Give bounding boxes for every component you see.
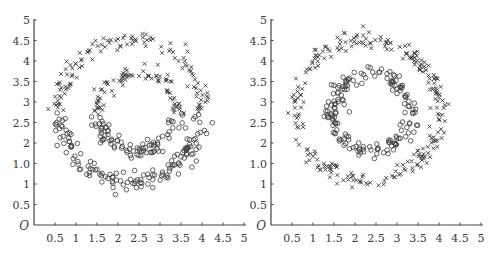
circle-marker	[158, 178, 163, 183]
circle-marker	[372, 156, 377, 161]
cross-marker	[344, 49, 348, 53]
y-tick-label: 3	[23, 96, 30, 109]
cross-marker	[350, 185, 354, 189]
circle-marker	[125, 180, 130, 185]
cross-marker	[369, 46, 373, 50]
cross-marker	[367, 30, 371, 34]
cross-marker	[428, 125, 432, 129]
cross-marker	[403, 44, 407, 48]
y-tick-label: 1	[260, 178, 267, 191]
y-tick-label: 4	[260, 55, 267, 68]
y-tick-label: 3.5	[13, 76, 31, 89]
cross-marker	[407, 43, 411, 47]
cross-marker	[125, 42, 129, 46]
cross-marker	[402, 167, 406, 171]
cross-marker	[398, 45, 402, 49]
cross-marker	[315, 158, 319, 162]
cross-marker	[435, 145, 439, 149]
cross-marker	[304, 71, 308, 75]
circle-marker	[114, 178, 119, 183]
left-scatter-panel: 0.511.522.533.544.550.511.022.533.544.55…	[0, 0, 250, 255]
cross-marker	[158, 74, 162, 78]
circle-marker	[62, 141, 67, 146]
circle-marker	[121, 170, 126, 175]
x-tick-label: 2	[352, 232, 359, 245]
cross-marker	[116, 48, 120, 52]
circle-marker	[351, 78, 356, 83]
axes: 0.511.522.533.544.550.511.022.533.544.55…	[250, 14, 485, 245]
cross-marker	[199, 89, 203, 93]
cross-marker	[206, 96, 210, 100]
cross-marker	[411, 169, 415, 173]
cross-marker	[144, 33, 148, 37]
circle-marker	[120, 144, 125, 149]
circle-marker	[61, 134, 66, 139]
cross-marker	[295, 116, 299, 120]
cross-marker	[53, 95, 57, 99]
circle-marker	[385, 76, 390, 81]
circle-marker	[352, 70, 357, 75]
cross-marker	[352, 178, 356, 182]
cross-marker	[429, 106, 433, 110]
circle-marker	[370, 70, 375, 75]
cross-marker	[420, 58, 424, 62]
cross-marker	[137, 74, 141, 78]
y-tick-label: 2	[260, 137, 267, 150]
axes: 0.511.522.533.544.550.511.022.533.544.55…	[13, 14, 248, 245]
circle-marker	[71, 162, 76, 167]
cross-marker	[144, 44, 148, 48]
cross-marker	[410, 159, 414, 163]
cross-marker	[419, 165, 423, 169]
y-tick-label: 4	[23, 55, 30, 68]
cross-marker	[186, 85, 190, 89]
x-tick-label: 4.5	[214, 232, 232, 245]
cross-marker	[329, 55, 333, 59]
cross-marker	[397, 173, 401, 177]
right-scatter-panel: 0.511.522.533.544.550.511.022.533.544.55…	[237, 0, 487, 255]
x-tick-label: 3.5	[172, 232, 190, 245]
cross-marker	[112, 94, 116, 98]
origin-label: O	[19, 219, 29, 233]
cross-marker	[344, 40, 348, 44]
circle-marker	[197, 120, 202, 125]
cross-marker	[94, 39, 98, 43]
x-tick-label: 3	[157, 232, 164, 245]
circle-marker	[55, 143, 60, 148]
cross-marker	[335, 173, 339, 177]
circle-marker	[167, 169, 172, 174]
cross-marker	[443, 119, 447, 123]
cross-marker	[373, 38, 377, 42]
circle-marker	[89, 114, 94, 119]
x-tick-label: 4	[436, 232, 443, 245]
cross-marker	[427, 81, 431, 85]
circle-marker	[100, 180, 105, 185]
cross-marker	[160, 51, 164, 55]
cross-marker	[389, 41, 393, 45]
cross-marker	[296, 126, 300, 130]
cross-marker	[299, 93, 303, 97]
circle-marker	[171, 126, 176, 131]
x-tick-label: 3	[394, 232, 401, 245]
circle-marker	[347, 110, 352, 115]
cross-marker	[361, 42, 365, 46]
cross-marker	[195, 95, 199, 99]
x-tick-label: 2.5	[130, 232, 148, 245]
circle-marker	[412, 101, 417, 106]
x-tick-label: 2	[115, 232, 122, 245]
cross-marker	[447, 102, 451, 106]
circle-marker	[397, 74, 402, 79]
cross-marker	[324, 168, 328, 172]
circle-marker	[75, 141, 80, 146]
cross-marker	[341, 178, 345, 182]
cross-marker	[322, 162, 326, 166]
cross-marker	[329, 171, 333, 175]
cross-marker	[436, 99, 440, 103]
circle-marker	[151, 185, 156, 190]
circle-marker	[402, 101, 407, 106]
circle-marker	[399, 128, 404, 133]
y-tick-label: 4.5	[250, 35, 268, 48]
cross-marker	[390, 48, 394, 52]
y-tick-label: 1.0	[250, 158, 268, 171]
circle-marker	[331, 91, 336, 96]
y-tick-label: 3.5	[250, 76, 268, 89]
